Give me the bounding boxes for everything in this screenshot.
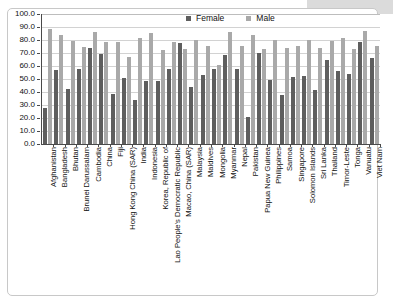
x-axis-category-label: Viet Nam (376, 147, 384, 178)
y-axis-tick-mark (37, 14, 40, 15)
x-axis-category-label: Bangladesh (61, 147, 69, 187)
bar-group (166, 14, 177, 144)
bar-group (98, 14, 109, 144)
bar-female (189, 87, 193, 144)
bar-male (194, 40, 198, 144)
y-axis-tick-mark (37, 27, 40, 28)
bar-male (183, 49, 187, 144)
bar-male (59, 35, 63, 144)
y-axis-tick-mark (37, 144, 40, 145)
bar-group (76, 14, 87, 144)
bar-group (256, 14, 267, 144)
bar-female (77, 69, 81, 144)
x-axis-category-label: China (106, 147, 114, 167)
y-axis-tick-mark (37, 118, 40, 119)
bar-female (358, 42, 362, 144)
legend-swatch-male-icon (246, 16, 251, 21)
plot-area (41, 14, 380, 145)
y-axis-tick-mark (37, 92, 40, 93)
y-axis-tick-mark (37, 79, 40, 80)
x-axis-category-label: Macao, China (SAR) (185, 147, 193, 217)
bar-series-container (42, 14, 380, 144)
bar-male (172, 42, 176, 144)
x-axis-category-label: Tonga (354, 147, 362, 168)
bar-male (341, 38, 345, 144)
bar-female (280, 95, 284, 144)
bar-male (262, 49, 266, 144)
x-axis-category-label: Mongolia (219, 147, 227, 178)
bar-group (290, 14, 301, 144)
bar-male (138, 38, 142, 144)
x-axis-category-label: Nepal (241, 147, 249, 167)
grouped-bar-chart: 100.090.080.070.060.050.040.030.020.010.… (0, 0, 393, 304)
bar-female (156, 81, 160, 144)
bar-female (133, 100, 137, 144)
bar-male (352, 49, 356, 144)
bar-male (116, 42, 120, 144)
x-axis-category-label: Pakistan (252, 147, 260, 176)
bar-male (296, 46, 300, 144)
legend-item-male: Male (246, 13, 274, 23)
y-axis-tick-label: 10.0 (19, 127, 35, 135)
bar-male (375, 46, 379, 144)
x-axis-category-label: Hong Kong China (SAR) (129, 147, 137, 230)
y-axis-tick-label: 80.0 (19, 36, 35, 44)
bar-male (363, 31, 367, 144)
x-axis-category-label: Maldives (207, 147, 215, 177)
x-axis-category-label: Timor-Leste (343, 147, 351, 187)
bar-group (211, 14, 222, 144)
bar-female (223, 55, 227, 144)
y-axis-tick-label: 30.0 (19, 101, 35, 109)
bar-female (122, 78, 126, 144)
bar-group (222, 14, 233, 144)
y-axis-tick-mark (37, 66, 40, 67)
bar-group (346, 14, 357, 144)
bar-group (369, 14, 380, 144)
bar-female (325, 60, 329, 144)
x-axis-category-labels: AfghanistanBangladeshBhutanBrunei Daruss… (41, 147, 379, 297)
y-axis-tick-label: 20.0 (19, 114, 35, 122)
bar-group (335, 14, 346, 144)
bar-group (132, 14, 143, 144)
x-axis-category-label: Brunei Darussalam (83, 147, 91, 212)
bar-male (82, 47, 86, 144)
bar-group (65, 14, 76, 144)
y-axis: 100.090.080.070.060.050.040.030.020.010.… (0, 8, 39, 150)
bar-male (71, 41, 75, 144)
bar-male (161, 50, 165, 144)
bar-female (54, 70, 58, 144)
bar-male (318, 48, 322, 144)
x-axis-category-label: Indonesia (151, 147, 159, 180)
bar-group (301, 14, 312, 144)
y-axis-tick-label: 70.0 (19, 49, 35, 57)
bar-group (200, 14, 211, 144)
bar-female (178, 43, 182, 144)
bar-female (302, 76, 306, 145)
y-axis-tick-label: 0.0 (24, 140, 35, 148)
bar-female (370, 58, 374, 144)
x-axis-category-label: Fiji (117, 147, 125, 157)
y-axis-tick-mark (37, 105, 40, 106)
bar-female (66, 89, 70, 145)
bar-group (121, 14, 132, 144)
x-axis-category-label: Myanmar (230, 147, 238, 179)
bar-group (53, 14, 64, 144)
x-axis-category-label: India (140, 147, 148, 163)
bar-male (149, 33, 153, 144)
bar-group (155, 14, 166, 144)
y-axis-tick-label: 100.0 (15, 10, 35, 18)
bar-female (291, 77, 295, 144)
bar-female (99, 54, 103, 144)
bar-group (42, 14, 53, 144)
x-axis-category-label: Vanuatu (365, 147, 373, 175)
bar-female (257, 53, 261, 144)
bar-group (267, 14, 278, 144)
y-axis-tick-label: 60.0 (19, 62, 35, 70)
bar-group (110, 14, 121, 144)
x-axis-category-label: Lao People's Democratic Republic (174, 147, 182, 263)
x-axis-category-label: Solomon Islands (309, 147, 317, 203)
y-axis-tick-mark (37, 131, 40, 132)
bar-female (246, 117, 250, 144)
bar-male (330, 41, 334, 144)
x-axis-category-label: Korea, Republic of (162, 147, 170, 209)
